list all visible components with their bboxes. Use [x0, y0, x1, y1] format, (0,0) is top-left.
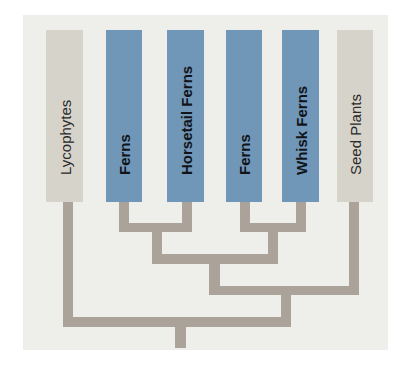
node-fern-clade [152, 254, 278, 264]
taxon-ferns-1: Ferns [106, 30, 142, 202]
taxon-horsetail-ferns: Horsetail Ferns [167, 30, 204, 202]
branch-seed-plants [349, 202, 359, 295]
branch-lycophytes [63, 202, 73, 327]
taxon-label: Seed Plants [348, 94, 363, 175]
taxon-label: Whisk Ferns [293, 86, 308, 175]
taxon-label: Lycophytes [57, 100, 72, 175]
taxon-seed-plants: Seed Plants [337, 30, 373, 202]
taxon-whisk-ferns: Whisk Ferns [282, 30, 319, 202]
node-ferns-whisk [240, 223, 306, 232]
taxon-label: Ferns [237, 134, 252, 175]
taxon-label: Horsetail Ferns [178, 66, 193, 175]
taxon-lycophytes: Lycophytes [46, 30, 83, 202]
node-ferns-horsetail [119, 223, 192, 232]
taxon-label: Ferns [117, 134, 132, 175]
taxon-ferns-2: Ferns [226, 30, 262, 202]
branch-root [175, 327, 186, 348]
node-root [63, 317, 291, 327]
node-euphyllophytes [209, 286, 359, 295]
